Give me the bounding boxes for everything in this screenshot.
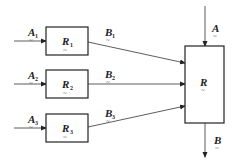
- block-r2: R 2 ~ A 2 ~ B 2 ~: [14, 68, 185, 98]
- tilde-mark: ~: [63, 133, 67, 141]
- tilde-mark: ~: [215, 144, 219, 152]
- block-r1-sub: 1: [70, 42, 73, 48]
- tilde-mark: ~: [106, 117, 110, 125]
- output-label-b1-sub: 1: [112, 33, 115, 39]
- tilde-mark: ~: [201, 86, 205, 94]
- tilde-mark: ~: [63, 46, 67, 54]
- input-label-a2-sub: 2: [35, 76, 38, 82]
- tilde-mark: ~: [63, 89, 67, 97]
- tilde-mark: ~: [106, 78, 110, 86]
- tilde-mark: ~: [29, 79, 33, 87]
- tilde-mark: ~: [29, 36, 33, 44]
- output-label-b3-sub: 3: [112, 114, 115, 120]
- output-arrow-b3: [88, 106, 185, 127]
- output-label-b2-sub: 2: [112, 75, 115, 81]
- tilde-mark: ~: [213, 32, 217, 40]
- tilde-mark: ~: [106, 36, 110, 44]
- input-label-a1-sub: 1: [35, 33, 38, 39]
- output-arrow-b1: [88, 42, 185, 63]
- fuzzy-relation-diagram: R 1 ~ A 1 ~ B 1 ~ R 2 ~ A 2 ~ B 2 ~ R 3 …: [0, 0, 238, 164]
- block-r3: R 3 ~ A 3 ~ B 3 ~: [14, 106, 185, 142]
- block-r3-sub: 3: [70, 129, 73, 135]
- input-label-a3-sub: 3: [35, 120, 38, 126]
- tilde-mark: ~: [29, 123, 33, 131]
- main-block-r: A ~ R ~ B ~: [185, 6, 224, 157]
- block-r1: R 1 ~ A 1 ~ B 1 ~: [14, 26, 185, 63]
- block-r2-sub: 2: [70, 85, 73, 91]
